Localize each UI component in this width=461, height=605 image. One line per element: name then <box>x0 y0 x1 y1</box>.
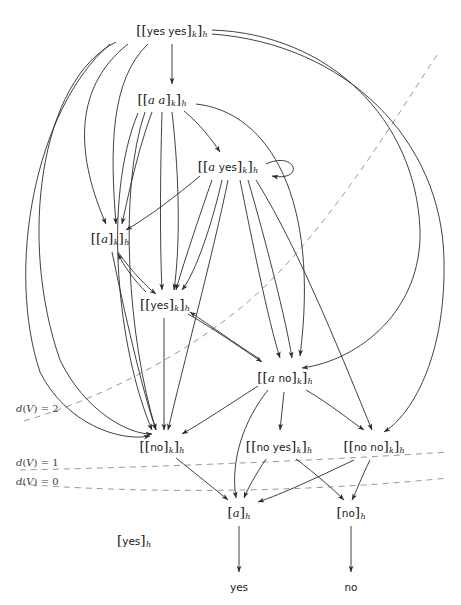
graph-diagram: [[yes yes]k]h[[a a]k]h[[a yes]k]h[[a]k]h… <box>0 0 461 605</box>
node-noh[interactable]: [no]h <box>336 504 365 521</box>
edge-yes-to-ano <box>188 314 262 362</box>
edge-yesyes-to-ano <box>212 30 420 368</box>
edge-ano-to-no <box>182 386 258 434</box>
edge-ano-to-nono <box>306 390 364 430</box>
edge-ayes-to-ano <box>240 180 280 358</box>
edge-ayes-to-ano <box>248 180 292 358</box>
node-no[interactable]: [[no]k]h <box>140 438 185 455</box>
edge-aa-to-ayes <box>184 111 220 152</box>
edge-ano-to-noyes <box>280 392 284 430</box>
edge-aa-to-yes <box>161 112 163 290</box>
node-a[interactable]: [[a]k]h <box>91 230 130 247</box>
edge-noyes-to-ah <box>244 459 266 498</box>
edge-ayes-to-ayes <box>266 160 293 176</box>
edge-noyes-to-noh <box>296 459 344 500</box>
edge-yes-to-a <box>118 254 146 292</box>
edge-yesyes-to-nono <box>212 34 444 432</box>
edge-ayes-to-nono <box>256 180 372 430</box>
edge-ano-to-yes <box>190 312 258 358</box>
level-line-d2-line <box>20 55 437 422</box>
edge-yesyes-to-a <box>85 44 128 224</box>
edges-layer <box>26 30 444 572</box>
node-noyes[interactable]: [[no yes]k]h <box>246 438 312 455</box>
edge-aa-to-yes <box>172 112 178 290</box>
node-yes[interactable]: [[yes]k]h <box>140 296 190 313</box>
edge-ayes-to-a <box>126 176 200 230</box>
level-label-d2: d(V) = 2 <box>16 403 59 414</box>
node-yesyes[interactable]: [[yes yes]k]h <box>136 22 207 39</box>
level-label-d0: d(V) = 0 <box>16 476 59 487</box>
edge-aa-to-no <box>118 113 152 430</box>
edge-nono-to-noh <box>352 460 370 500</box>
level-line-d0-line <box>20 478 448 490</box>
terminal-t-yes: yes <box>230 581 248 593</box>
node-ah[interactable]: [a]h <box>228 504 251 521</box>
edge-a-to-yes <box>118 252 156 294</box>
node-nono[interactable]: [[no no]k]h <box>343 438 404 455</box>
level-label-d1: d(V) = 1 <box>16 457 59 468</box>
node-yesh[interactable]: [yes]h <box>117 532 151 549</box>
node-ano[interactable]: [[a no]k]h <box>257 369 312 386</box>
terminal-t-no: no <box>344 581 357 593</box>
node-aa[interactable]: [[a a]k]h <box>137 91 186 108</box>
edge-aa-to-a <box>122 112 152 224</box>
node-ayes[interactable]: [[a yes]k]h <box>198 158 258 175</box>
edge-no-to-ah <box>176 458 228 500</box>
